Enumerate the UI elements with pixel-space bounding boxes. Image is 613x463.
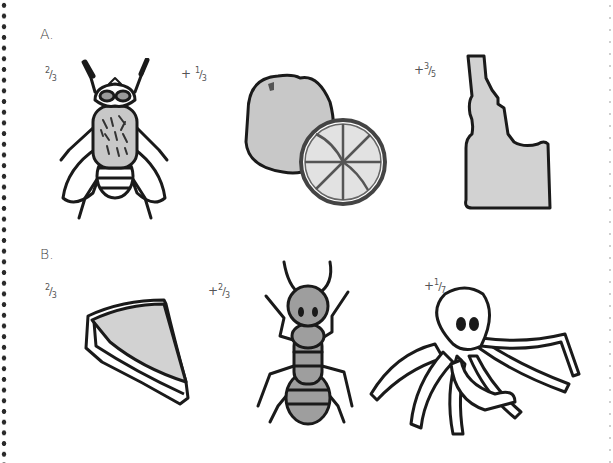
section-a-label: A. <box>40 26 54 42</box>
denominator: 3 <box>52 291 57 300</box>
idaho-state-illustration <box>458 52 558 212</box>
ant-illustration <box>248 256 368 426</box>
fraction-b1: 2/3 <box>45 283 57 300</box>
orange-illustration <box>238 72 393 212</box>
binder-hole-dots-left <box>0 0 12 463</box>
octopus-illustration <box>365 284 585 439</box>
denominator: 3 <box>225 291 230 300</box>
operator: + <box>208 284 218 298</box>
fly-illustration <box>55 58 175 223</box>
pie-slice-illustration <box>82 298 194 410</box>
fraction-a3: +3/5 <box>414 62 436 79</box>
fraction-b2: +2/3 <box>208 283 230 300</box>
perforation-dots-right <box>607 0 613 463</box>
operator: + <box>414 63 424 77</box>
operator: + <box>181 67 191 81</box>
fraction-a2: + 1/3 <box>181 66 207 83</box>
denominator: 3 <box>202 74 207 83</box>
denominator: 5 <box>431 70 436 79</box>
section-b-label: B. <box>40 246 54 262</box>
